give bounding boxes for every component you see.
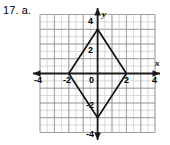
y-axis-arrow-down	[94, 133, 101, 141]
y-tick-label-2: 2	[88, 45, 93, 55]
origin-label: 0	[89, 75, 94, 85]
figure-root: 17. a.	[0, 0, 170, 145]
y-tick-label-4: 4	[88, 16, 93, 26]
y-tick-label--4: -4	[86, 129, 94, 139]
y-axis-label: y	[101, 9, 107, 19]
x-axis-label: x	[154, 58, 160, 68]
coordinate-plot: x y -4 -2 2 4 4 2 -2 -4 0	[0, 0, 170, 145]
x-tick-label-4: 4	[152, 75, 157, 85]
x-tick-label--4: -4	[34, 75, 42, 85]
y-axis-arrow-up	[94, 8, 101, 16]
coordinate-plot-svg: x y -4 -2 2 4 4 2 -2 -4 0	[0, 0, 170, 145]
